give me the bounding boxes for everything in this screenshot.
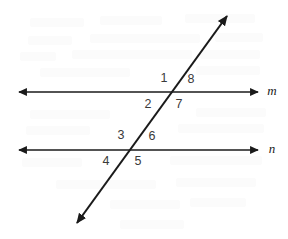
angle-label-7: 7 — [176, 97, 183, 111]
angle-label-2: 2 — [145, 97, 152, 111]
angle-label-1: 1 — [161, 71, 168, 85]
angle-label-6: 6 — [149, 129, 156, 143]
line-label-m: m — [267, 83, 276, 98]
geometry-figure: m n 1 8 7 2 3 6 5 4 — [0, 0, 288, 239]
angle-label-8: 8 — [188, 72, 195, 86]
angle-label-4: 4 — [103, 154, 110, 168]
diagram-canvas: m n 1 8 7 2 3 6 5 4 — [0, 0, 288, 239]
angle-label-3: 3 — [118, 128, 125, 142]
transversal-line — [77, 16, 227, 223]
angle-label-5: 5 — [135, 154, 142, 168]
line-label-n: n — [269, 141, 276, 156]
